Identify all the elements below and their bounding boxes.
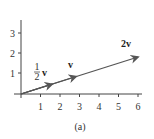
x-tick-2: 2 bbox=[58, 101, 63, 112]
label-half-v: 1 2 v bbox=[34, 61, 47, 82]
label-2v: 2v bbox=[121, 38, 131, 49]
x-tick-1: 1 bbox=[38, 101, 43, 112]
half-v-symbol: v bbox=[42, 67, 47, 78]
y-tick-1: 1 bbox=[10, 68, 15, 79]
figure-caption: (a) bbox=[74, 121, 85, 133]
x-tick-6: 6 bbox=[136, 101, 141, 112]
vector-diagram: 1 2 3 4 5 6 1 2 3 1 2 v v 2v (a) bbox=[0, 0, 154, 139]
label-v: v bbox=[68, 59, 73, 70]
vector-half-v bbox=[21, 84, 52, 94]
x-tick-5: 5 bbox=[116, 101, 121, 112]
x-tick-labels: 1 2 3 4 5 6 bbox=[38, 101, 141, 112]
fraction-denominator: 2 bbox=[35, 71, 40, 82]
x-tick-3: 3 bbox=[77, 101, 82, 112]
x-tick-4: 4 bbox=[97, 101, 102, 112]
y-tick-labels: 1 2 3 bbox=[10, 28, 15, 79]
y-tick-2: 2 bbox=[10, 48, 15, 59]
y-tick-3: 3 bbox=[10, 28, 15, 39]
